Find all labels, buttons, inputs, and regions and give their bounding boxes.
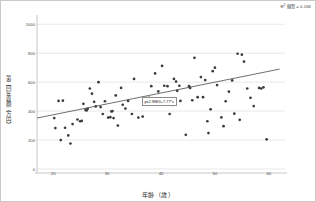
scatter-point [243, 60, 246, 63]
regression-line [37, 69, 280, 118]
scatter-point [220, 116, 223, 119]
x-axis-tick-label: 60 [266, 171, 271, 176]
scatter-point [222, 125, 225, 128]
scatter-point [200, 76, 203, 79]
plot-area: 020040060080010002030405060y=2.98E3+7.77… [37, 17, 285, 169]
fit-equation-label: y=2.98E3+7.77*x [142, 97, 177, 106]
scatter-point [207, 132, 210, 135]
y-axis-tick-label: 800 [28, 51, 35, 56]
scatter-point [117, 124, 120, 127]
y-axis-tick-label: 0 [33, 167, 35, 172]
scatter-point [93, 100, 96, 103]
scatter-point [161, 65, 164, 68]
scatter-point [71, 123, 74, 126]
scatter-point [88, 87, 91, 90]
x-axis-title: 年齢（歳） [1, 190, 315, 199]
scatter-point [101, 113, 104, 116]
plot-inner: 020040060080010002030405060y=2.98E3+7.77… [37, 17, 285, 169]
scatter-point [137, 116, 140, 119]
scatter-point [216, 84, 219, 87]
scatter-point [91, 92, 94, 95]
scatter-point [209, 108, 212, 111]
scatter-point [111, 110, 114, 113]
scatter-point [163, 84, 166, 87]
plot-canvas [37, 17, 285, 169]
scatter-point [206, 120, 209, 123]
scatter-point [69, 142, 72, 145]
scatter-point [231, 79, 234, 82]
scatter-point [193, 56, 196, 59]
scatter-point [224, 100, 227, 103]
scatter-point [82, 103, 85, 106]
scatter-point [236, 52, 239, 55]
scatter-point [246, 87, 249, 90]
scatter-point [54, 127, 57, 130]
r-squared-annotation: R2 線型 = 0.166 [280, 3, 311, 9]
scatter-point [214, 66, 217, 69]
scatter-point [57, 100, 60, 103]
scatter-point [62, 99, 65, 102]
scatter-point [233, 112, 236, 115]
x-axis-tick-label: 50 [213, 171, 218, 176]
scatter-point [179, 100, 182, 103]
scatter-chart-panel: R2 線型 = 0.166 第二回年収額（万円） 020040060080010… [0, 0, 316, 202]
x-axis-tick-label: 40 [159, 171, 164, 176]
y-axis-title: 第二回年収額（万円） [2, 75, 12, 127]
scatter-point [252, 105, 255, 108]
scatter-point [64, 126, 67, 129]
scatter-point [99, 106, 102, 109]
y-axis-tick-label: 600 [28, 80, 35, 85]
scatter-point [109, 116, 112, 119]
r-squared-value: 線型 = 0.166 [285, 4, 311, 9]
scatter-point [131, 113, 134, 116]
scatter-point [104, 100, 107, 103]
y-axis-tick-label: 400 [28, 109, 35, 114]
scatter-point [238, 118, 241, 121]
scatter-point [168, 113, 171, 116]
scatter-point [120, 87, 123, 90]
scatter-point [133, 78, 136, 81]
scatter-point [97, 81, 100, 84]
scatter-point [141, 115, 144, 118]
scatter-point [175, 80, 178, 83]
scatter-point [191, 99, 194, 102]
scatter-point [173, 78, 176, 81]
scatter-point [202, 96, 205, 99]
scatter-point [59, 139, 62, 142]
scatter-point [154, 72, 157, 75]
scatter-point [228, 90, 231, 93]
scatter-point [80, 120, 83, 123]
scatter-point [157, 90, 160, 93]
scatter-point [53, 117, 56, 120]
scatter-point [124, 107, 127, 110]
scatter-point [241, 53, 244, 56]
x-axis-tick-label: 20 [51, 171, 56, 176]
scatter-point [76, 118, 79, 121]
scatter-point [265, 138, 268, 141]
scatter-point [67, 134, 70, 137]
scatter-point [184, 133, 187, 136]
y-axis-tick-label: 1000 [26, 22, 35, 27]
scatter-point [121, 103, 124, 106]
scatter-point [262, 86, 265, 89]
scatter-point [211, 70, 214, 73]
scatter-point [196, 96, 199, 99]
scatter-point [178, 84, 181, 87]
scatter-point [204, 79, 207, 82]
scatter-point [114, 94, 117, 97]
scatter-point [166, 85, 169, 88]
scatter-point [150, 85, 153, 88]
y-axis-tick-label: 200 [28, 138, 35, 143]
scatter-point [249, 96, 252, 99]
scatter-point [112, 117, 115, 120]
x-axis-tick-label: 30 [105, 171, 110, 176]
